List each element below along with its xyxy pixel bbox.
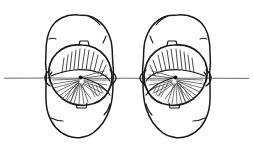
rib (177, 79, 203, 80)
left-right-rib-fan (80, 71, 108, 99)
left-inner-shell-outline (49, 45, 112, 105)
left-lower-rib-fan (53, 79, 88, 104)
left-umbo-point (79, 76, 83, 80)
right-body-crease-upper-left (150, 36, 153, 43)
rib (78, 49, 80, 69)
left-specimen-group (45, 15, 116, 138)
rib (188, 55, 190, 71)
rib (53, 79, 79, 80)
rib (158, 55, 162, 72)
right-inner-shell-outline (144, 45, 207, 105)
rib (177, 82, 194, 99)
right-umbo-point (174, 76, 178, 80)
rib (86, 50, 89, 70)
rib (192, 58, 194, 73)
right-outer-rib-fan (148, 71, 176, 99)
rib (90, 52, 94, 70)
rib (66, 55, 68, 71)
rib (62, 82, 79, 99)
right-body-crease-upper-right (200, 38, 207, 39)
rib (171, 49, 174, 69)
rib (184, 52, 186, 70)
right-lower-rib-fan (168, 79, 203, 104)
right-body-crease-lower-right (193, 118, 205, 121)
figure-canvas: Paired mirror-image specimen outlines wi… (0, 0, 253, 151)
rib (176, 84, 177, 104)
rib (82, 49, 85, 69)
specimen-diagram (0, 0, 253, 151)
rib (79, 84, 80, 104)
left-body-crease-upper-right (103, 36, 106, 43)
rib (162, 52, 166, 70)
rib (167, 50, 170, 70)
rib (74, 50, 76, 69)
rib (62, 58, 64, 73)
rib (180, 50, 182, 69)
right-specimen-group (140, 15, 211, 138)
rib (176, 49, 178, 69)
rib (94, 55, 98, 72)
rib (70, 52, 72, 70)
left-body-crease-lower-left (51, 118, 63, 121)
left-body-crease-upper-left (49, 38, 56, 39)
